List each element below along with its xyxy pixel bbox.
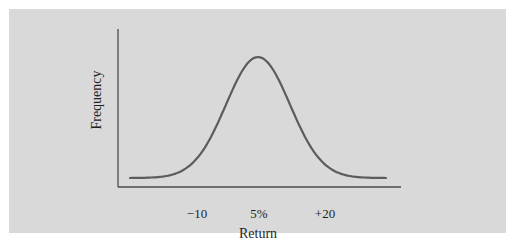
chart-svg: −10 5% +20 Return Frequency bbox=[0, 0, 515, 250]
x-tick-label-pos20: +20 bbox=[315, 206, 335, 221]
y-axis-title: Frequency bbox=[89, 70, 104, 129]
x-axis-title: Return bbox=[239, 226, 277, 241]
normal-distribution-curve bbox=[130, 57, 386, 178]
x-tick-label-neg10: −10 bbox=[187, 206, 207, 221]
x-tick-label-5pct: 5% bbox=[250, 206, 268, 221]
